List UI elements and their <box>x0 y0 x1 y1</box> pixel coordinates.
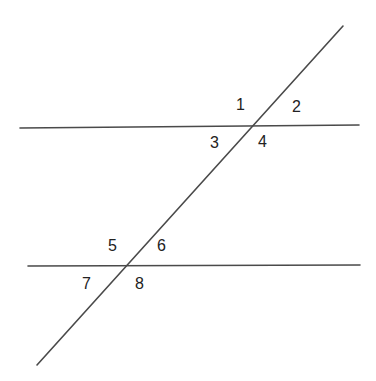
angle-label-1: 1 <box>236 96 245 113</box>
angle-label-8: 8 <box>135 275 144 292</box>
diagram-svg: 1 2 3 4 5 6 7 8 <box>0 0 376 381</box>
angle-label-7: 7 <box>82 275 91 292</box>
angle-label-2: 2 <box>292 98 301 115</box>
parallel-line-bottom <box>28 265 360 266</box>
angle-label-3: 3 <box>210 134 219 151</box>
transversal-line <box>37 26 343 365</box>
parallel-line-top <box>20 125 359 128</box>
angle-label-5: 5 <box>108 237 117 254</box>
diagram-canvas: 1 2 3 4 5 6 7 8 <box>0 0 376 381</box>
angle-label-6: 6 <box>157 237 166 254</box>
angle-label-4: 4 <box>258 133 267 150</box>
